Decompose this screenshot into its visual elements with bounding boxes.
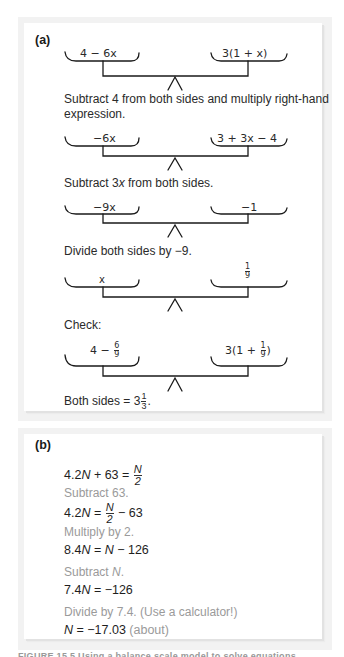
frac-den: 9 [261, 350, 266, 359]
note-text: from both sides. [125, 176, 214, 190]
eq-text: = −17.03 [73, 623, 126, 637]
step-var: N [112, 565, 121, 579]
step-3-note: Divide both sides by −9. [64, 244, 192, 259]
frac-num: 1 [141, 392, 146, 401]
eq-text: − 63 [115, 506, 143, 520]
scale-4-right-expr: 19 [244, 263, 251, 280]
step-multiply-2: Multiply by 2. [64, 525, 134, 539]
expr-prefix: 3(1 + [225, 344, 256, 357]
eq-text: 4.2 [64, 468, 81, 482]
scale-4-left-expr: x [99, 272, 105, 287]
eq-text: 7.4 [64, 583, 81, 597]
equation-2: 4.2N = N2 − 63 [64, 502, 143, 525]
note-text: Subtract 3 [64, 176, 119, 190]
eq-var: N [105, 543, 114, 557]
scale-5-right-expr: 3(1 + 19) [225, 342, 271, 359]
scale-1-right-expr: 3(1 + x) [222, 46, 267, 61]
frac-den: 9 [114, 350, 119, 359]
eq-text: + 63 = [90, 468, 132, 482]
scale-3-left-expr: −9x [93, 200, 116, 215]
step-text: Subtract [64, 565, 112, 579]
step-1-line-1: Subtract 4 from both sides and multiply … [64, 92, 329, 107]
note-text: . [147, 394, 150, 408]
step-2-note: Subtract 3x from both sides. [64, 176, 213, 191]
expr-suffix: ) [267, 344, 271, 357]
scale-1-left-expr: 4 − 6x [80, 46, 117, 61]
step-subtract-63: Subtract 63. [64, 486, 129, 500]
frac-num: 6 [114, 342, 119, 350]
eq-var: N [64, 623, 73, 637]
scale-2-right-expr: 3 + 3x − 4 [217, 131, 277, 146]
scale-5-left-expr: 4 − 69 [90, 342, 120, 359]
eq-text: = −126 [90, 583, 132, 597]
scale-3-right-expr: −1 [241, 200, 257, 215]
frac-den: 2 [134, 475, 142, 487]
frac-num: 1 [245, 263, 250, 271]
equation-1: 4.2N + 63 = N2 [64, 464, 143, 487]
eq-text: 4.2 [64, 506, 81, 520]
balance-scale-5 [65, 355, 287, 391]
step-divide: Divide by 7.4. (Use a calculator!) [64, 605, 237, 619]
check-note: Check: [64, 318, 101, 333]
eq-text: 8.4 [64, 543, 81, 557]
eq-text: = [90, 506, 104, 520]
frac-den: 9 [245, 271, 250, 280]
frac-num: 1 [261, 342, 266, 350]
expr-prefix: 4 − [90, 344, 110, 357]
eq-text: = [90, 543, 104, 557]
step-1-line-2: expression. [64, 107, 125, 122]
frac-num: N [134, 464, 142, 475]
equation-5: N = −17.03 (about) [64, 623, 169, 637]
panel-b-label: (b) [35, 438, 51, 452]
equation-3: 8.4N = N − 126 [64, 543, 149, 557]
frac-num: N [106, 502, 114, 513]
step-subtract-n: Subtract N. [64, 565, 124, 579]
frac-den: 3 [141, 401, 146, 411]
eq-text: − 126 [114, 543, 149, 557]
frac-den: 2 [106, 513, 114, 525]
step-text: . [121, 565, 124, 579]
result-note: Both sides = 313. [64, 392, 151, 411]
note-text: Both sides = 3 [64, 394, 140, 408]
scale-2-left-expr: −6x [93, 131, 116, 146]
figure-caption: FIGURE 15.5 Using a balance scale model … [18, 651, 296, 657]
equation-4: 7.4N = −126 [64, 583, 133, 597]
eq-note: (about) [126, 623, 169, 637]
